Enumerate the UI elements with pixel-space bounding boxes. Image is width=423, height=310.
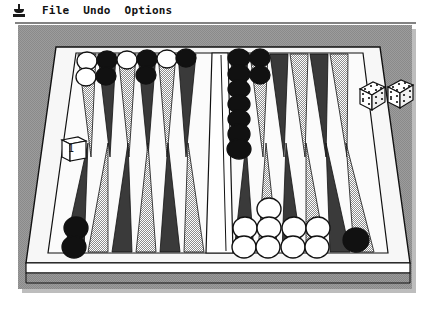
- menu-file[interactable]: File: [35, 0, 76, 22]
- menu-bar: File Undo Options: [0, 0, 423, 22]
- doubling-cube[interactable]: [0, 0, 423, 310]
- doubling-cube-layer: 1: [0, 0, 423, 310]
- goblet-bowl: [14, 9, 24, 13]
- goblet-base: [13, 14, 25, 17]
- menu-undo[interactable]: Undo: [76, 0, 117, 22]
- menu-options[interactable]: Options: [118, 0, 180, 22]
- cube-front-face[interactable]: [62, 140, 70, 161]
- backgammon-window: File Undo Options: [0, 0, 423, 310]
- cube-right-face: [70, 141, 86, 161]
- goblet-icon[interactable]: [13, 4, 26, 18]
